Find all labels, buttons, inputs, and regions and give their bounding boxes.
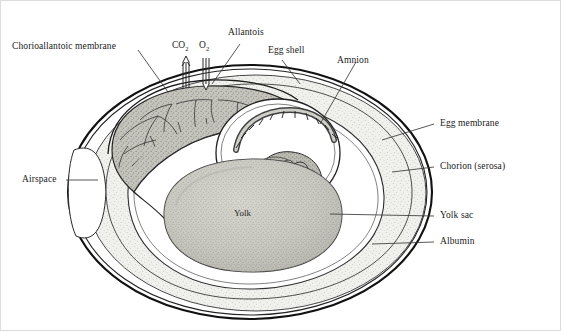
airspace-region [68, 148, 106, 238]
o2-subscript: 2 [206, 45, 209, 52]
label-egg-membrane: Egg membrane [440, 118, 499, 128]
o2-text: O [199, 40, 206, 50]
yolk-mass [164, 159, 342, 272]
label-egg-shell: Egg shell [268, 45, 305, 55]
label-chorion-serosa: Chorion (serosa) [440, 161, 505, 171]
label-amnion: Amnion [337, 55, 369, 65]
label-albumin: Albumin [440, 236, 474, 246]
label-yolk-sac: Yolk sac [440, 210, 473, 220]
label-yolk: Yolk [234, 208, 251, 218]
label-chorioallantoic-membrane: Chorioallantoic membrane [12, 41, 116, 51]
co2-arrow [182, 56, 190, 88]
label-o2: O2 [199, 40, 209, 52]
label-co2: CO2 [172, 40, 188, 52]
label-airspace: Airspace [22, 174, 57, 184]
co2-subscript: 2 [185, 45, 188, 52]
label-allantois: Allantois [228, 27, 264, 37]
egg-cross-section-figure: Chorioallantoic membrane Allantois Egg s… [0, 0, 561, 331]
co2-text: CO [172, 40, 185, 50]
